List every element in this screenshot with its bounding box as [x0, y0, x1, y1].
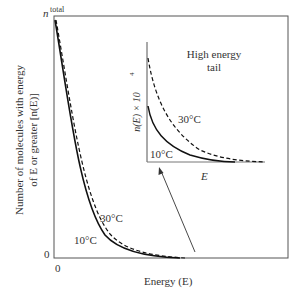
inset-title-line2: tail [207, 61, 221, 73]
inset-label-30c: 30°C [178, 113, 201, 125]
x-zero-label: 0 [55, 262, 61, 274]
inset-y-label-sup: 4 [128, 72, 136, 76]
main-label-30c: 30°C [100, 212, 123, 224]
plot-frame [54, 16, 288, 258]
arrow-head-icon [159, 167, 164, 175]
inset-curve-30c [148, 58, 265, 162]
y-top-label-sup: total [50, 5, 65, 14]
inset-title-line1: High energy [187, 48, 242, 60]
chart: n total Number of molecules with energy … [0, 0, 299, 291]
inset-label-10c: 10°C [150, 148, 173, 160]
y-axis-label-line2: of E or greater [n(E)] [27, 93, 40, 186]
y-axis-label-line1: Number of molecules with energy [13, 64, 25, 215]
pointer-arrow [161, 171, 195, 252]
main-label-10c: 10°C [74, 234, 97, 246]
y-zero-label: 0 [44, 248, 50, 260]
x-axis-label: Energy (E) [144, 275, 193, 288]
inset-x-label: E [200, 170, 208, 182]
y-top-label: n [43, 7, 49, 19]
inset-y-label: n(E) × 10 [131, 92, 143, 132]
